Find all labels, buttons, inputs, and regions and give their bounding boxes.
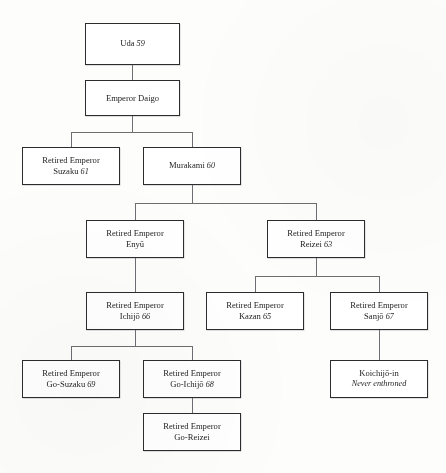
node-reign-number: 59 bbox=[135, 39, 145, 48]
node-prefix: Retired Emperor bbox=[42, 368, 100, 379]
node-prefix: Retired Emperor bbox=[226, 300, 284, 311]
node-kazan[interactable]: Retired EmperorKazan 65 bbox=[206, 292, 304, 330]
node-murakami[interactable]: Murakami 60 bbox=[143, 147, 241, 185]
node-prefix: Retired Emperor bbox=[106, 228, 164, 239]
node-enyu[interactable]: Retired EmperorEnyū bbox=[86, 220, 184, 258]
node-uda[interactable]: Uda 59 bbox=[85, 23, 180, 65]
connector-lines bbox=[0, 0, 446, 473]
node-reign-number: 67 bbox=[384, 312, 394, 321]
node-reign-number: 68 bbox=[204, 380, 214, 389]
node-sanjo[interactable]: Retired EmperorSanjō 67 bbox=[330, 292, 428, 330]
node-daigo[interactable]: Emperor Daigo bbox=[85, 80, 180, 116]
node-title: Go-Reizei bbox=[174, 432, 209, 443]
node-reign-number: 60 bbox=[205, 161, 215, 170]
node-title: Go-Ichijō 68 bbox=[170, 379, 214, 391]
node-prefix: Retired Emperor bbox=[42, 155, 100, 166]
page-running-header bbox=[78, 0, 198, 7]
node-suzaku[interactable]: Retired EmperorSuzaku 61 bbox=[22, 147, 120, 185]
node-title: Koichijō-in bbox=[359, 368, 399, 379]
scan-grain-overlay bbox=[0, 0, 446, 473]
node-title: Ichijō 66 bbox=[120, 311, 150, 323]
node-reign-number: 61 bbox=[79, 167, 89, 176]
node-title: Sanjō 67 bbox=[364, 311, 394, 323]
node-title: Murakami 60 bbox=[169, 160, 215, 172]
genealogy-chart: Uda 59Emperor DaigoRetired EmperorSuzaku… bbox=[0, 0, 446, 473]
node-reign-number: 66 bbox=[140, 312, 150, 321]
node-title: Kazan 65 bbox=[239, 311, 271, 323]
node-prefix: Retired Emperor bbox=[106, 300, 164, 311]
node-reign-number: 63 bbox=[322, 240, 332, 249]
node-go-suzaku[interactable]: Retired EmperorGo-Suzaku 69 bbox=[22, 360, 120, 398]
node-title: Go-Suzaku 69 bbox=[47, 379, 96, 391]
node-title: Enyū bbox=[126, 239, 144, 250]
node-koichijo-in[interactable]: Koichijō-inNever enthroned bbox=[330, 360, 428, 398]
node-subtitle: Never enthroned bbox=[352, 379, 407, 390]
node-reign-number: 69 bbox=[85, 380, 95, 389]
node-prefix: Retired Emperor bbox=[287, 228, 345, 239]
node-reign-number: 65 bbox=[261, 312, 271, 321]
node-title: Reizei 63 bbox=[300, 239, 332, 251]
node-go-ichijo[interactable]: Retired EmperorGo-Ichijō 68 bbox=[143, 360, 241, 398]
node-prefix: Retired Emperor bbox=[350, 300, 408, 311]
node-title: Emperor Daigo bbox=[106, 93, 159, 104]
node-title: Suzaku 61 bbox=[53, 166, 89, 178]
node-go-reizei[interactable]: Retired EmperorGo-Reizei bbox=[143, 413, 241, 451]
node-prefix: Retired Emperor bbox=[163, 421, 221, 432]
node-ichijo[interactable]: Retired EmperorIchijō 66 bbox=[86, 292, 184, 330]
node-reizei[interactable]: Retired EmperorReizei 63 bbox=[267, 220, 365, 258]
node-title: Uda 59 bbox=[120, 38, 145, 50]
node-prefix: Retired Emperor bbox=[163, 368, 221, 379]
